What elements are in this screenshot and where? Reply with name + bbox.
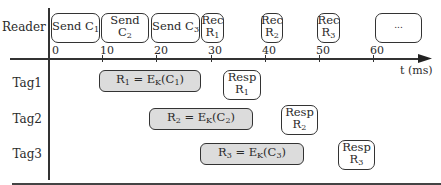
reader-rec-r2-box: RecR2 <box>261 13 283 43</box>
tick-label-0: 0 <box>52 44 59 57</box>
tick-label-60: 60 <box>370 44 384 57</box>
axis-label: t (ms) <box>400 64 433 77</box>
reader-send-c1-box: Send C1 <box>51 13 100 43</box>
tag3-resp-box: RespR3 <box>338 140 375 170</box>
tag3-compute-box: R3 = EK(C3) <box>200 143 304 165</box>
axis-arrow-icon <box>418 53 432 64</box>
tag1-resp-box: RespR1 <box>223 70 261 100</box>
reader-send-c3-box: Send C3 <box>151 13 200 43</box>
tick-label-10: 10 <box>100 44 114 57</box>
reader-send-c2-box: Send C2 <box>101 13 149 43</box>
tag1-compute-box: R1 = EK(C1) <box>99 70 201 92</box>
reader-rec-r1-box: RecR1 <box>201 13 224 43</box>
tag2-resp-box: RespR2 <box>281 105 318 135</box>
reader-ellipsis-box: ... <box>375 13 422 43</box>
time-axis-line <box>10 58 425 60</box>
vertical-axis-line <box>48 8 50 180</box>
tag2-compute-box: R2 = EK(C2) <box>149 108 253 130</box>
tick-label-50: 50 <box>316 44 330 57</box>
tick-label-30: 30 <box>208 44 222 57</box>
row-label-tag1: Tag1 <box>2 76 42 90</box>
row-label-tag2: Tag2 <box>2 112 42 126</box>
bottom-rule <box>12 183 441 185</box>
row-label-tag3: Tag3 <box>2 147 42 161</box>
tick-label-40: 40 <box>262 44 276 57</box>
reader-rec-r3-box: RecR3 <box>317 13 340 43</box>
tick-label-20: 20 <box>154 44 168 57</box>
row-label-reader: Reader <box>2 20 42 34</box>
